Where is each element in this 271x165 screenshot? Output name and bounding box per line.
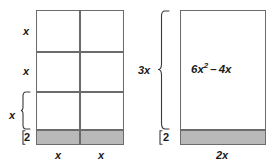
expression-first-term: 6x2 [191, 63, 208, 75]
left-grid-shaded-strip-divider [79, 130, 81, 145]
left-grid-vline-1 [79, 10, 81, 145]
left-row-3-label: x [9, 110, 15, 121]
left-shaded-strip-brace [20, 130, 26, 145]
right-shaded-strip [180, 130, 266, 145]
left-column-2-label: x [98, 150, 104, 161]
right-shaded-strip-label: 2 [163, 132, 169, 143]
right-height-brace [157, 10, 170, 130]
left-column-1-label: x [55, 150, 61, 161]
left-row-1-label: x [23, 26, 29, 37]
expression-operator: – [208, 63, 218, 75]
figure-canvas: x x x 2 x x 6x2–4x 3x 2 2x [0, 0, 271, 165]
expression-second-term: 4x [219, 63, 232, 75]
left-row-3-brace [20, 91, 31, 130]
right-area-expression: 6x2–4x [191, 64, 231, 76]
right-width-label: 2x [216, 150, 228, 161]
right-shaded-strip-brace [157, 130, 163, 145]
left-row-2-label: x [23, 66, 29, 77]
right-height-label: 3x [138, 65, 150, 76]
